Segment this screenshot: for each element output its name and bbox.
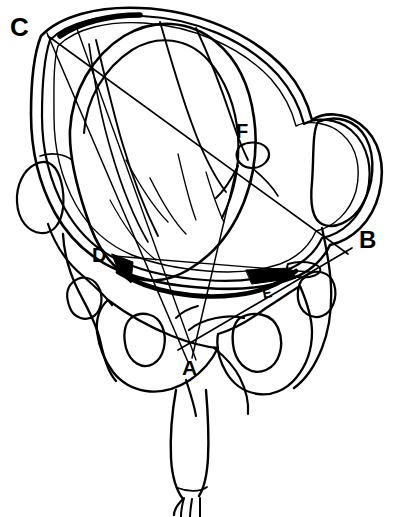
label-point-c: C (10, 14, 29, 40)
diagram-background (0, 0, 398, 517)
label-point-b: B (359, 228, 376, 252)
label-point-a: A (182, 357, 197, 378)
label-point-d: D (92, 245, 106, 265)
fetal-pelvis-diagram: C F B D E A (0, 0, 398, 517)
diagram-canvas (0, 0, 398, 517)
label-point-f: F (236, 121, 248, 141)
